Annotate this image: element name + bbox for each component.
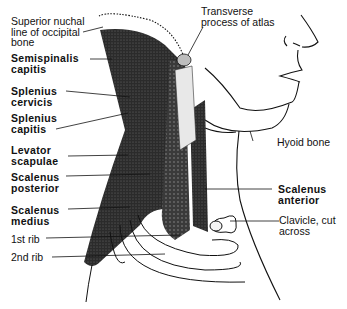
- transverse-process-atlas-shape: [177, 54, 191, 66]
- nostril-outline: [284, 36, 287, 46]
- label-hyoid-bone: Hyoid bone: [277, 137, 330, 148]
- label-scalenus-medius: Scalenus medius: [11, 205, 60, 226]
- anatomy-diagram: Superior nuchal line of occipital bone S…: [0, 0, 347, 309]
- label-scalenus-posterior: Scalenus posterior: [11, 172, 60, 193]
- label-second-rib: 2nd rib: [11, 252, 43, 263]
- label-levator-scapulae: Levator scapulae: [11, 145, 58, 166]
- label-first-rib: 1st rib: [11, 234, 40, 245]
- label-transverse-process-atlas: Transverse process of atlas: [201, 6, 275, 27]
- label-splenius-cervicis: Splenius cervicis: [11, 86, 57, 107]
- label-scalenus-anterior: Scalenus anterior: [278, 184, 327, 205]
- clavicle: [210, 216, 236, 233]
- nose-outline: [301, 15, 318, 47]
- throat-outline: [237, 131, 280, 300]
- label-superior-nuchal-line: Superior nuchal line of occipital bone: [11, 16, 85, 48]
- back-outline-lower: [86, 265, 92, 302]
- label-clavicle-cut: Clavicle, cut across: [279, 215, 336, 236]
- lips-outline: [280, 50, 302, 82]
- label-splenius-capitis: Splenius capitis: [11, 113, 57, 134]
- label-semispinalis-capitis: Semispinalis capitis: [11, 53, 79, 74]
- nostril-detail: [293, 43, 300, 46]
- chin-underside: [205, 104, 289, 132]
